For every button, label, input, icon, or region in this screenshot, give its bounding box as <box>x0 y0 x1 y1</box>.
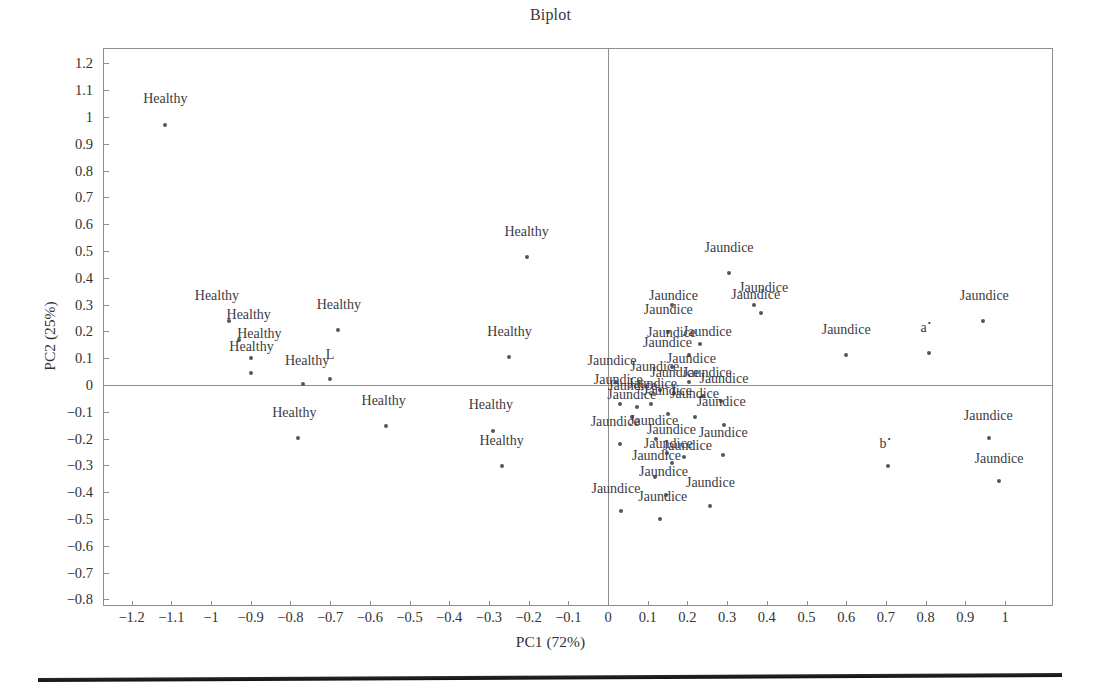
x-tick-label: −0.2 <box>515 609 541 626</box>
data-point[interactable] <box>618 442 622 446</box>
data-point[interactable] <box>296 436 300 440</box>
y-tick-mark <box>104 197 109 198</box>
x-tick-label: 0.1 <box>639 609 657 626</box>
y-tick-mark <box>104 412 109 413</box>
x-tick-label: −0.8 <box>277 609 303 626</box>
x-tick-label: −0.4 <box>436 609 462 626</box>
x-tick-label: 0.2 <box>678 609 696 626</box>
x-tick-label: −1.2 <box>118 609 144 626</box>
x-axis-title: PC1 (72%) <box>0 633 1101 651</box>
x-tick-mark <box>370 601 371 606</box>
data-point[interactable] <box>635 405 639 409</box>
data-point-label: Jaundice <box>699 372 748 386</box>
data-point[interactable] <box>844 353 848 357</box>
data-point[interactable] <box>525 255 529 259</box>
y-tick-mark <box>104 599 109 600</box>
data-point[interactable] <box>507 355 511 359</box>
data-point[interactable] <box>384 424 388 428</box>
x-tick-mark <box>648 601 649 606</box>
x-tick-label: 0.9 <box>956 609 974 626</box>
x-tick-mark <box>290 601 291 606</box>
x-tick-label: 0.7 <box>877 609 895 626</box>
x-tick-mark <box>489 601 490 606</box>
data-point[interactable] <box>708 504 712 508</box>
data-point-label: Jaundice <box>639 465 688 479</box>
data-point[interactable] <box>618 402 622 406</box>
data-point-label: Jaundice <box>697 395 746 409</box>
x-tick-mark <box>132 601 133 606</box>
y-tick-label: −0.3 <box>0 457 93 474</box>
data-point[interactable] <box>693 415 697 419</box>
x-tick-mark <box>1005 601 1006 606</box>
data-point[interactable] <box>619 509 623 513</box>
x-tick-mark <box>807 601 808 606</box>
x-tick-label: −1.1 <box>158 609 184 626</box>
data-point[interactable] <box>249 371 253 375</box>
data-point-label: Jaundice <box>686 476 735 490</box>
y-tick-label: 0.7 <box>0 189 93 206</box>
data-point-label: Jaundice <box>632 449 681 463</box>
data-point[interactable] <box>727 271 731 275</box>
data-point[interactable] <box>997 479 1001 483</box>
y-tick-mark <box>104 439 109 440</box>
data-point[interactable] <box>759 311 763 315</box>
y-tick-label: 1.2 <box>0 55 93 72</box>
x-tick-label: −0.7 <box>317 609 343 626</box>
data-point-label: Jaundice <box>591 482 640 496</box>
data-point-label: Healthy <box>272 406 316 420</box>
data-point[interactable] <box>500 464 504 468</box>
y-tick-mark <box>104 358 109 359</box>
data-point-label: Healthy <box>362 394 406 408</box>
data-point-label: Jaundice <box>644 303 693 317</box>
x-tick-mark <box>449 601 450 606</box>
y-tick-mark <box>104 492 109 493</box>
data-point[interactable] <box>163 123 167 127</box>
data-point[interactable] <box>301 382 305 386</box>
y-tick-mark <box>104 171 109 172</box>
data-point[interactable] <box>927 351 931 355</box>
y-tick-label: −0.2 <box>0 430 93 447</box>
data-point[interactable] <box>981 319 985 323</box>
x-tick-mark <box>687 601 688 606</box>
data-point-label: Jaundice <box>638 490 687 504</box>
x-tick-label: −0.5 <box>396 609 422 626</box>
data-point[interactable] <box>336 328 340 332</box>
x-tick-label: 0.3 <box>718 609 736 626</box>
data-point[interactable] <box>658 517 662 521</box>
data-point[interactable] <box>682 455 686 459</box>
x-tick-label: −1 <box>203 609 218 626</box>
data-point[interactable] <box>698 342 702 346</box>
data-point-label: Jaundice <box>649 289 698 303</box>
data-point-label: Jaundice <box>960 289 1009 303</box>
y-tick-mark <box>104 224 109 225</box>
x-tick-mark <box>727 601 728 606</box>
data-point[interactable] <box>328 377 332 381</box>
y-tick-mark <box>104 117 109 118</box>
y-tick-mark <box>104 90 109 91</box>
data-point-label: Healthy <box>317 298 361 312</box>
data-point[interactable] <box>721 453 725 457</box>
page-scan-bar <box>38 673 1062 682</box>
y-tick-mark <box>104 331 109 332</box>
y-tick-mark <box>104 385 109 386</box>
y-tick-label: 1 <box>0 109 93 126</box>
x-tick-label: −0.1 <box>555 609 581 626</box>
data-point-label: Healthy <box>487 325 531 339</box>
x-tick-mark <box>568 601 569 606</box>
x-tick-label: 0.8 <box>917 609 935 626</box>
data-point[interactable] <box>752 303 756 307</box>
y-tick-label: 0.6 <box>0 216 93 233</box>
y-tick-mark <box>104 519 109 520</box>
data-point-label: b <box>880 435 891 451</box>
y-tick-mark <box>104 573 109 574</box>
x-tick-label: 0.6 <box>837 609 855 626</box>
y-tick-mark <box>104 144 109 145</box>
x-tick-mark <box>608 601 609 606</box>
x-tick-label: 0.4 <box>758 609 776 626</box>
data-point[interactable] <box>249 356 253 360</box>
data-point[interactable] <box>886 464 890 468</box>
data-point-label: Jaundice <box>607 388 656 402</box>
x-tick-mark <box>171 601 172 606</box>
data-point[interactable] <box>649 402 653 406</box>
data-point[interactable] <box>987 436 991 440</box>
